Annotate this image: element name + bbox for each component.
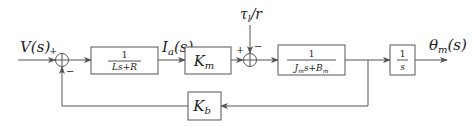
block-diagram: V(s) + − 1 Ls+R Ia(s) Km τl/r + <box>0 0 473 127</box>
torque-constant-block: Km <box>185 47 231 74</box>
svg-text:1: 1 <box>309 49 315 59</box>
svg-text:Ls+R: Ls+R <box>111 62 137 72</box>
integrator-block: 1 s <box>390 45 415 75</box>
sum1-plus-sign: + <box>49 45 57 56</box>
disturbance-label: τl/r <box>240 6 263 24</box>
mechanical-block: 1 Jms+Bm <box>278 45 345 75</box>
summing-junction-2 <box>244 54 257 67</box>
sum2-plus-sign: + <box>236 44 244 55</box>
svg-text:1: 1 <box>122 50 128 60</box>
input-label: V(s) <box>20 38 50 56</box>
summing-junction-1 <box>56 54 69 67</box>
svg-text:s: s <box>400 62 405 72</box>
electrical-block: 1 Ls+R <box>91 47 158 74</box>
back-emf-block: Kb <box>188 92 221 120</box>
output-label: θm(s) <box>429 36 467 55</box>
sum2-minus-sign: − <box>254 41 262 52</box>
svg-text:1: 1 <box>400 49 406 59</box>
sum1-minus-sign: − <box>66 66 74 77</box>
